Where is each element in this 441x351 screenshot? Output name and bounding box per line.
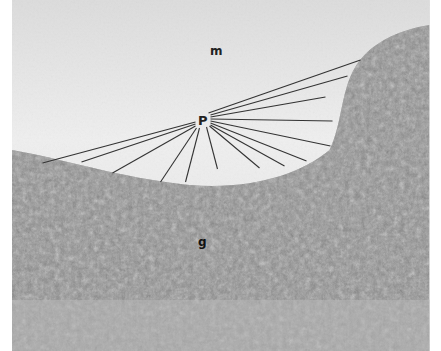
label-P: P: [198, 114, 208, 127]
label-g: g: [198, 236, 207, 248]
label-m: m: [210, 45, 223, 57]
